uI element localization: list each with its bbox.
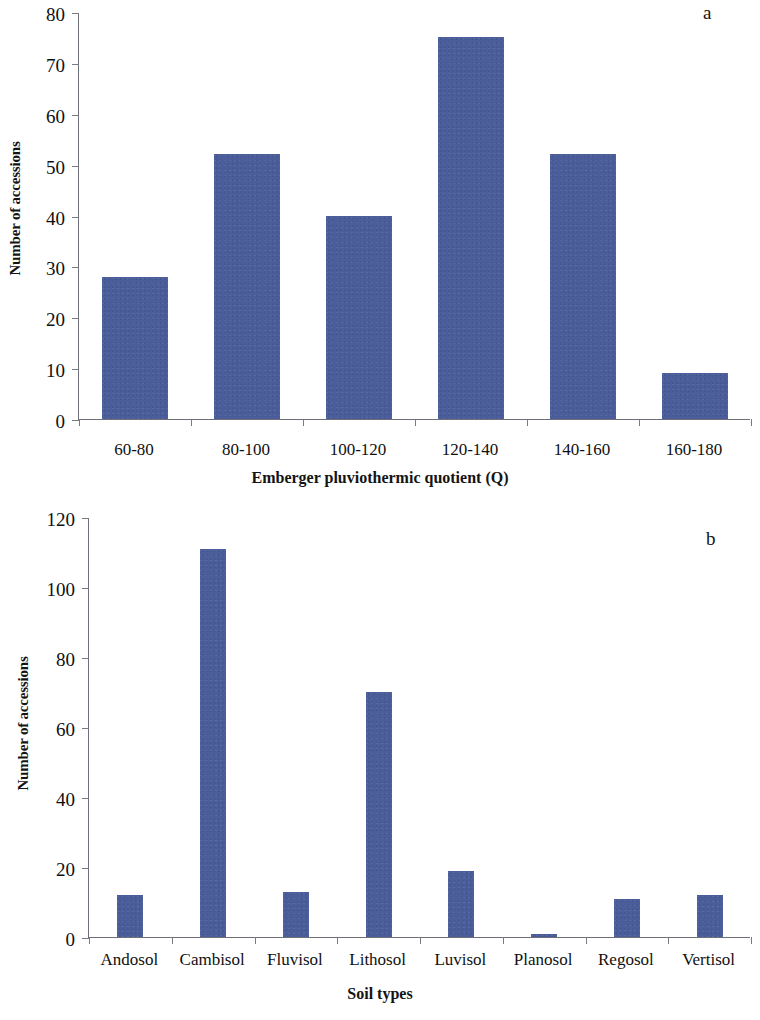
x-axis-tick: [751, 419, 752, 426]
x-axis-tick: [191, 419, 192, 426]
x-axis-tick: [255, 937, 256, 944]
x-axis-tick-label: 100-120: [330, 440, 387, 460]
y-axis-tick: 0: [72, 420, 79, 421]
y-axis-tick: 20: [72, 318, 79, 319]
bar: [283, 892, 309, 938]
x-axis-tick-label: Luvisol: [434, 950, 486, 970]
y-axis-tick-label: 10: [46, 361, 65, 380]
y-axis-tick-label: 60: [56, 720, 75, 739]
x-axis-tick-label: Vertisol: [682, 950, 735, 970]
y-axis-tick-label: 70: [46, 55, 65, 74]
y-axis-tick: 60: [82, 728, 89, 729]
y-axis-tick: 60: [72, 115, 79, 116]
x-axis-tick-label: Fluvisol: [267, 950, 323, 970]
y-axis-tick-label: 40: [56, 790, 75, 809]
bar: [614, 899, 640, 938]
y-axis-tick: 0: [82, 938, 89, 939]
x-axis-tick: [420, 937, 421, 944]
y-axis-tick-label: 0: [66, 930, 76, 949]
panel-a-y-axis-title: Number of accessions: [7, 139, 24, 279]
y-axis-tick: 40: [72, 217, 79, 218]
bar: [102, 277, 168, 419]
y-axis-tick-label: 50: [46, 157, 65, 176]
x-axis-tick: [415, 419, 416, 426]
y-axis-tick-label: 80: [56, 650, 75, 669]
y-axis-tick: 30: [72, 267, 79, 268]
x-axis-tick-label: Regosol: [598, 950, 654, 970]
bar: [214, 154, 280, 419]
x-axis-tick: [503, 937, 504, 944]
y-axis-tick-label: 40: [46, 208, 65, 227]
x-axis-tick: [337, 937, 338, 944]
x-axis-tick-label: Planosol: [514, 950, 573, 970]
x-axis-tick: [527, 419, 528, 426]
y-axis-tick: 10: [72, 369, 79, 370]
x-axis-tick: [303, 419, 304, 426]
panel-b-y-axis-title: Number of accessions: [15, 649, 32, 799]
bar: [550, 154, 616, 419]
y-axis-tick: 40: [82, 798, 89, 799]
y-axis-tick-label: 120: [47, 510, 76, 529]
y-axis-tick-label: 0: [56, 412, 66, 431]
panel-b-plot-area: 020406080100120: [88, 518, 750, 938]
bar: [117, 895, 143, 937]
y-axis-tick: 100: [82, 588, 89, 589]
x-axis-tick-label: 80-100: [222, 440, 270, 460]
y-axis-tick: 50: [72, 166, 79, 167]
x-axis-tick-label: Andosol: [101, 950, 159, 970]
x-axis-tick: [586, 937, 587, 944]
x-axis-tick: [751, 937, 752, 944]
y-axis-tick: 120: [82, 518, 89, 519]
bar: [438, 37, 504, 419]
y-axis-tick: 70: [72, 64, 79, 65]
x-axis-tick-label: 160-180: [666, 440, 723, 460]
x-axis-tick-label: Cambisol: [180, 950, 245, 970]
x-axis-tick: [79, 419, 80, 426]
bar: [662, 373, 728, 419]
y-axis-tick: 20: [82, 868, 89, 869]
bar: [200, 549, 226, 938]
x-axis-tick: [668, 937, 669, 944]
y-axis-tick-label: 80: [46, 5, 65, 24]
bar: [531, 934, 557, 938]
x-axis-tick: [639, 419, 640, 426]
x-axis-tick: [89, 937, 90, 944]
y-axis-tick-label: 20: [56, 860, 75, 879]
bar: [326, 216, 392, 420]
chart-panel-b: Number of accessions b 020406080100120 S…: [0, 500, 760, 1020]
x-axis-tick: [172, 937, 173, 944]
y-axis-tick-label: 20: [46, 310, 65, 329]
x-axis-tick-label: 120-140: [442, 440, 499, 460]
y-axis-tick-label: 30: [46, 259, 65, 278]
y-axis-tick: 80: [72, 13, 79, 14]
chart-panel-a: Number of accessions a 01020304050607080…: [0, 0, 760, 500]
y-axis-tick-label: 100: [47, 580, 76, 599]
panel-a-plot-area: 01020304050607080: [78, 13, 750, 420]
bar: [697, 895, 723, 937]
panel-b-x-axis-title: Soil types: [0, 985, 760, 1003]
panel-a-x-axis-title: Emberger pluviothermic quotient (Q): [0, 469, 760, 487]
y-axis-tick-label: 60: [46, 106, 65, 125]
x-axis-tick-label: 60-80: [114, 440, 154, 460]
x-axis-tick-label: Lithosol: [349, 950, 406, 970]
bar: [448, 871, 474, 938]
bar: [366, 692, 392, 937]
y-axis-tick: 80: [82, 658, 89, 659]
x-axis-tick-label: 140-160: [554, 440, 611, 460]
